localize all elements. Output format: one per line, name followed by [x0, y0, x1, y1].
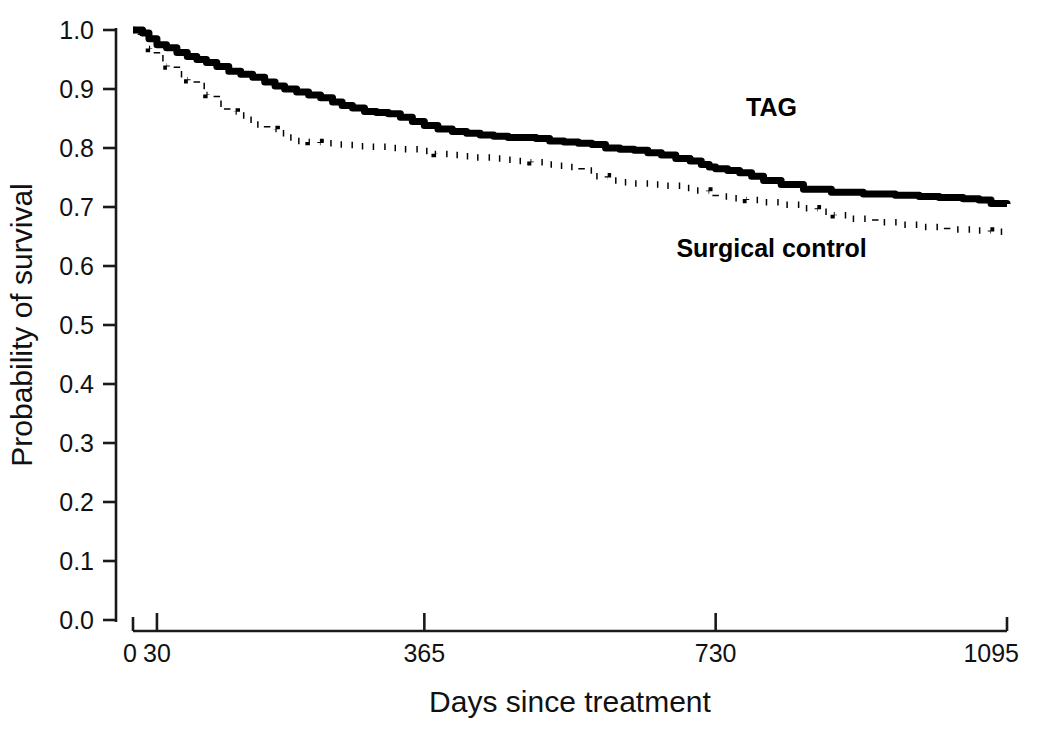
curve-surgical-control: [133, 30, 1007, 232]
curve-tag: [133, 30, 1007, 204]
series-curves: [133, 30, 1007, 232]
x-axis-title: Days since treatment: [429, 685, 711, 718]
x-tick-label: 730: [695, 639, 737, 667]
y-tick-label: 0.2: [59, 488, 94, 516]
y-tick-label: 0.1: [59, 547, 94, 575]
x-axis: 0303657301095: [123, 613, 1019, 667]
y-tick-label: 0.9: [59, 75, 94, 103]
y-tick-label: 0.0: [59, 606, 94, 634]
y-axis: 0.00.10.20.30.40.50.60.70.80.91.0: [59, 16, 116, 634]
series-label-tag: TAG: [746, 93, 797, 121]
x-tick-label: 1095: [963, 639, 1019, 667]
x-tick-label: 0: [123, 639, 137, 667]
survival-chart-figure: 0.00.10.20.30.40.50.60.70.80.91.0 030365…: [0, 0, 1055, 746]
y-tick-label: 1.0: [59, 16, 94, 44]
x-tick-label: 365: [403, 639, 445, 667]
kaplan-meier-plot: 0.00.10.20.30.40.50.60.70.80.91.0 030365…: [0, 0, 1055, 746]
y-tick-label: 0.7: [59, 193, 94, 221]
y-tick-label: 0.6: [59, 252, 94, 280]
y-tick-label: 0.8: [59, 134, 94, 162]
series-label-surgical-control: Surgical control: [676, 234, 866, 262]
y-tick-label: 0.5: [59, 311, 94, 339]
y-tick-label: 0.3: [59, 429, 94, 457]
x-tick-label: 30: [143, 639, 171, 667]
y-tick-label: 0.4: [59, 370, 94, 398]
y-axis-title: Probability of survival: [5, 183, 38, 466]
